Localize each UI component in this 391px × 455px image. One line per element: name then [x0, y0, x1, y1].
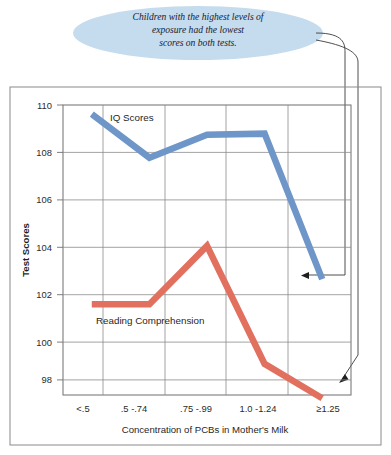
- x-tick-label-5: ≥1.25: [316, 403, 339, 414]
- x-tick-label-4: 1.0 -1.24: [239, 403, 276, 414]
- x-tick-label-2: .5 -.74: [121, 403, 148, 414]
- y-tick-label-102: 102: [36, 289, 52, 300]
- y-tick-label-110: 110: [37, 100, 52, 111]
- pcb-test-scores-figure: Children with the highest levels of expo…: [0, 0, 391, 455]
- x-tick-label-1: <.5: [76, 403, 89, 414]
- y-tick-label-106: 106: [36, 194, 52, 205]
- callout-line-1: Children with the highest levels of: [132, 11, 264, 22]
- x-tick-label-3: .75 -.99: [180, 403, 212, 414]
- series-label-reading-comprehension: Reading Comprehension: [96, 315, 204, 326]
- y-tick-label-100: 100: [36, 337, 52, 348]
- y-tick-label-108: 108: [36, 147, 52, 158]
- x-axis-title: Concentration of PCBs in Mother's Milk: [122, 424, 289, 435]
- y-tick-label-104: 104: [36, 242, 52, 253]
- figure-background: [0, 0, 391, 455]
- y-tick-label-98: 98: [42, 374, 52, 385]
- series-label-iq-scores: IQ Scores: [110, 112, 154, 123]
- y-axis-title: Test Scores: [20, 223, 31, 277]
- callout-line-3: scores on both tests.: [159, 37, 236, 48]
- callout-line-2: exposure had the lowest: [152, 24, 244, 35]
